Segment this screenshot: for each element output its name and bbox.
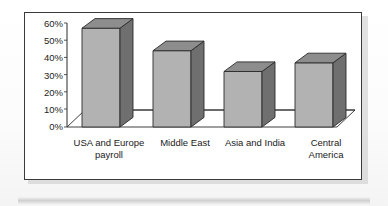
y-tick-label-20: 20%	[44, 87, 64, 98]
x-axis-category-labels: USA and Europe payroll Middle East Asia …	[74, 137, 345, 160]
category-label-central-america-line2: America	[309, 149, 345, 160]
chart-frame: 60% 50% 40% 30% 20% 10% 0%	[24, 12, 362, 180]
y-tick-label-0: 0%	[49, 121, 63, 132]
category-label-usa-and-europe-payroll-line1: USA and Europe	[74, 137, 145, 148]
scan-artifact-smudge	[18, 197, 370, 204]
bar-front-face	[295, 63, 333, 127]
y-tick-label-40: 40%	[44, 52, 64, 63]
bar-side-face	[262, 62, 275, 127]
bar-chart-plot: 60% 50% 40% 30% 20% 10% 0%	[25, 13, 361, 179]
chart-screenshot: 60% 50% 40% 30% 20% 10% 0%	[0, 0, 388, 206]
bar-front-face	[224, 72, 262, 128]
y-tick-label-50: 50%	[44, 35, 64, 46]
category-label-usa-and-europe-payroll-line2: payroll	[95, 149, 123, 160]
bar-asia-and-india[interactable]	[224, 62, 275, 127]
bar-front-face	[153, 51, 191, 127]
category-label-middle-east: Middle East	[160, 137, 210, 148]
bar-front-face	[82, 28, 120, 127]
y-tick-label-60: 60%	[44, 18, 64, 29]
category-label-asia-and-india: Asia and India	[225, 137, 286, 148]
bar-side-face	[120, 19, 133, 127]
bar-central-america[interactable]	[295, 53, 346, 127]
bar-usa-and-europe-payroll[interactable]	[82, 19, 133, 127]
category-label-central-america-line1: Central	[311, 137, 342, 148]
y-tick-label-10: 10%	[44, 104, 64, 115]
y-tick-label-30: 30%	[44, 70, 64, 81]
bar-middle-east[interactable]	[153, 41, 204, 127]
bar-side-face	[333, 53, 346, 127]
bar-side-face	[191, 41, 204, 127]
y-axis-tick-labels: 60% 50% 40% 30% 20% 10% 0%	[44, 18, 64, 132]
